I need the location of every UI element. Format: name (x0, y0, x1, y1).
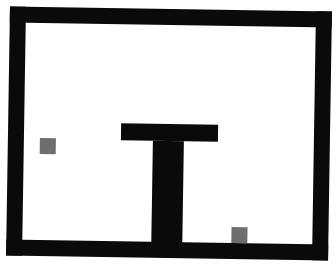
target-square[interactable] (231, 227, 247, 243)
room-wall-top (10, 7, 332, 28)
t-wall-stem (151, 141, 184, 243)
t-wall-crossbar (121, 123, 218, 142)
room-wall-left (6, 7, 26, 256)
room-wall-right (312, 11, 332, 260)
agent-square[interactable] (40, 138, 56, 154)
game-scene (0, 0, 336, 268)
